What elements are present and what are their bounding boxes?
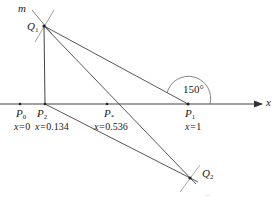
geometry-diagram: m Q1 Q2 x 150° P0 x=0 P2 x=0.134 P* x=0.… [0, 0, 275, 199]
point-q2 [188, 176, 191, 179]
segment-q1-q2 [44, 26, 196, 184]
segment-q1-p1 [44, 26, 188, 104]
value-p0: x=0 [14, 122, 30, 132]
label-p0: P0 [16, 108, 26, 121]
label-pstar: P* [104, 108, 114, 121]
label-q2: Q2 [202, 168, 213, 181]
value-p2: x=0.134 [35, 122, 69, 132]
label-q1: Q1 [27, 21, 38, 34]
point-p1 [187, 103, 190, 106]
angle-label: 150° [183, 84, 204, 95]
point-p0 [19, 103, 22, 106]
x-axis-label: x [266, 97, 271, 108]
value-pstar: x=0.536 [94, 122, 128, 132]
diagram-lines [0, 0, 275, 199]
segment-p2-q2 [45, 104, 198, 182]
line-m-label: m [18, 3, 26, 14]
label-p2: P2 [37, 108, 47, 121]
point-q1 [42, 24, 45, 27]
label-p1: P1 [185, 108, 195, 121]
point-p2 [44, 103, 47, 106]
caption-fragment: ... [205, 191, 210, 197]
point-pstar [106, 103, 109, 106]
value-p1: x=1 [185, 122, 201, 132]
segment-q1-p2 [44, 26, 45, 104]
